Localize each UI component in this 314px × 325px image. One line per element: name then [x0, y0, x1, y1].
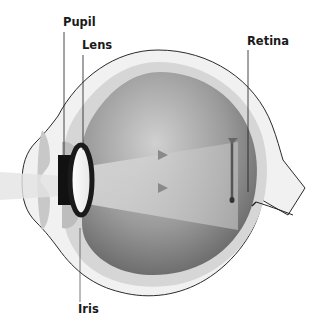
light-rays-left	[0, 172, 64, 200]
lens	[70, 145, 92, 215]
eye-diagram	[0, 0, 314, 325]
label-retina: Retina	[247, 34, 289, 48]
label-iris: Iris	[78, 302, 99, 316]
label-pupil: Pupil	[63, 15, 96, 29]
label-lens: Lens	[82, 38, 112, 52]
